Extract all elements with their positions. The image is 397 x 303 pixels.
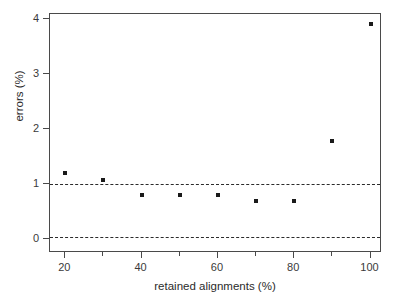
y-tick bbox=[43, 18, 49, 19]
data-point bbox=[101, 178, 105, 182]
x-tick bbox=[141, 252, 142, 258]
x-tick bbox=[217, 252, 218, 258]
x-tick-minor bbox=[179, 252, 180, 256]
x-tick-minor bbox=[255, 252, 256, 256]
x-tick-label: 80 bbox=[287, 261, 299, 273]
data-point bbox=[63, 171, 67, 175]
data-point bbox=[216, 193, 220, 197]
y-tick-label: 0 bbox=[33, 232, 39, 244]
y-axis-title: errors (%) bbox=[13, 0, 33, 196]
y-tick bbox=[43, 238, 49, 239]
plot-area bbox=[49, 13, 381, 252]
x-tick-minor bbox=[102, 252, 103, 256]
x-tick bbox=[64, 252, 65, 258]
x-tick bbox=[293, 252, 294, 258]
y-tick-label: 1 bbox=[33, 177, 39, 189]
y-tick-label: 2 bbox=[33, 122, 39, 134]
reference-line-y1 bbox=[50, 184, 380, 185]
x-tick bbox=[370, 252, 371, 258]
x-tick-label: 40 bbox=[134, 261, 146, 273]
reference-line-y0-05 bbox=[50, 237, 380, 238]
scatter-plot-figure: 01234 20406080100 errors (%) retained al… bbox=[0, 0, 397, 303]
x-tick-label: 60 bbox=[211, 261, 223, 273]
x-tick-label: 100 bbox=[360, 261, 378, 273]
data-point bbox=[140, 193, 144, 197]
data-point bbox=[254, 199, 258, 203]
x-tick-minor bbox=[331, 252, 332, 256]
data-point bbox=[369, 22, 373, 26]
y-tick-label: 3 bbox=[33, 67, 39, 79]
y-tick bbox=[43, 183, 49, 184]
x-tick-label: 20 bbox=[58, 261, 70, 273]
y-tick-label: 4 bbox=[33, 12, 39, 24]
data-point bbox=[292, 199, 296, 203]
data-point bbox=[330, 139, 334, 143]
data-point bbox=[178, 193, 182, 197]
y-tick bbox=[43, 73, 49, 74]
y-tick bbox=[43, 128, 49, 129]
x-axis-title: retained alignments (%) bbox=[49, 280, 381, 292]
